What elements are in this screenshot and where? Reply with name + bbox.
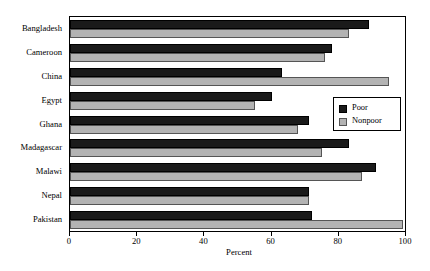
x-tick-label-40: 40 bbox=[199, 236, 208, 246]
category-axis-labels: BangladeshCameroonChinaEgyptGhanaMadagas… bbox=[0, 16, 66, 232]
bar-madagascar-nonpoor bbox=[70, 148, 322, 157]
category-label-nepal: Nepal bbox=[41, 191, 62, 200]
bar-cameroon-nonpoor bbox=[70, 53, 325, 62]
category-label-bangladesh: Bangladesh bbox=[22, 24, 62, 33]
legend-item-nonpoor: Nonpoor bbox=[339, 115, 400, 128]
bar-cameroon-poor bbox=[70, 44, 332, 53]
x-tick-label-0: 0 bbox=[67, 236, 71, 246]
x-tick-label-80: 80 bbox=[334, 236, 343, 246]
bar-chart: BangladeshCameroonChinaEgyptGhanaMadagas… bbox=[0, 0, 430, 271]
category-label-cameroon: Cameroon bbox=[26, 48, 62, 57]
legend-label-poor: Poor bbox=[352, 104, 368, 112]
x-tick-label-60: 60 bbox=[266, 236, 275, 246]
bar-egypt-nonpoor bbox=[70, 101, 255, 110]
bar-malawi-poor bbox=[70, 163, 376, 172]
bar-nepal-poor bbox=[70, 187, 309, 196]
category-label-madagascar: Madagascar bbox=[20, 143, 62, 152]
legend-item-poor: Poor bbox=[339, 102, 400, 115]
x-tick-label-100: 100 bbox=[399, 236, 412, 246]
bar-bangladesh-nonpoor bbox=[70, 29, 349, 38]
bar-ghana-poor bbox=[70, 116, 309, 125]
bar-ghana-nonpoor bbox=[70, 125, 298, 134]
bar-egypt-poor bbox=[70, 92, 272, 101]
category-label-malawi: Malawi bbox=[36, 167, 62, 176]
bar-bangladesh-poor bbox=[70, 20, 369, 29]
category-label-china: China bbox=[41, 71, 62, 80]
x-axis-title: Percent bbox=[0, 248, 430, 257]
bar-china-poor bbox=[70, 68, 282, 77]
bar-pakistan-poor bbox=[70, 211, 312, 220]
legend: Poor Nonpoor bbox=[333, 97, 401, 131]
category-label-egypt: Egypt bbox=[41, 95, 62, 104]
bar-madagascar-poor bbox=[70, 139, 349, 148]
bar-china-nonpoor bbox=[70, 77, 389, 86]
bar-nepal-nonpoor bbox=[70, 196, 309, 205]
bar-pakistan-nonpoor bbox=[70, 220, 403, 229]
x-tick-label-20: 20 bbox=[132, 236, 141, 246]
category-label-pakistan: Pakistan bbox=[33, 215, 62, 224]
category-label-ghana: Ghana bbox=[40, 119, 62, 128]
legend-swatch-poor-icon bbox=[339, 105, 347, 113]
legend-label-nonpoor: Nonpoor bbox=[352, 117, 382, 125]
bar-malawi-nonpoor bbox=[70, 172, 362, 181]
x-axis-title-text: Percent bbox=[226, 247, 252, 257]
legend-swatch-nonpoor-icon bbox=[339, 118, 347, 126]
